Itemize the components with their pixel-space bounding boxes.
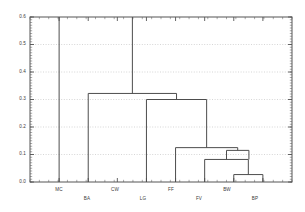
dendrogram-figure: 0.6 0.5 0.4 0.3 0.2 0.1 0.0 MC BA CW LG … [0,0,305,212]
dendrogram-plot [0,0,305,212]
